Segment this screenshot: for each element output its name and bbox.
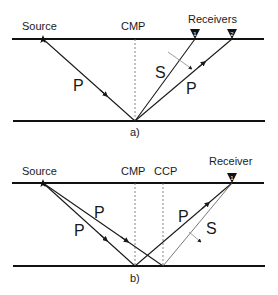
panel-b: 1 Source CMP CCP Receiver P P P S b) — [12, 155, 265, 284]
incident-p-ray-ccp — [43, 183, 163, 266]
reflected-p-ray — [135, 39, 232, 121]
converted-s-ray — [163, 183, 232, 266]
ray-arrow-icon — [202, 204, 208, 209]
polarization-arrow-icon — [168, 52, 192, 69]
ray-label-p-upper: P — [94, 204, 105, 221]
receiver-1-icon: 1 — [190, 29, 200, 39]
source-label: Source — [22, 20, 57, 32]
incident-p-ray-cmp — [43, 183, 135, 266]
panel-a: 1 2 Source CMP Receivers P S P a) — [12, 13, 265, 138]
ray-arrow-icon — [198, 63, 204, 68]
cmp-label: CMP — [121, 165, 145, 177]
source-label: Source — [22, 165, 57, 177]
ray-label-p-incident: P — [73, 77, 84, 94]
polarization-arrow-icon — [189, 232, 201, 242]
receivers-label: Receivers — [188, 13, 237, 25]
cmp-label: CMP — [121, 20, 145, 32]
ccp-label: CCP — [154, 165, 177, 177]
panel-caption-b: b) — [130, 272, 140, 284]
incident-p-ray — [43, 39, 135, 121]
ray-label-p-reflected: P — [186, 80, 197, 97]
ray-arrow-icon — [100, 90, 106, 95]
ray-arrow-icon — [100, 234, 106, 239]
receiver-1-icon: 1 — [227, 173, 237, 183]
panel-caption-a: a) — [130, 126, 140, 138]
ray-label-p-reflected: P — [178, 208, 189, 225]
receiver-label: Receiver — [209, 155, 253, 167]
ray-arrow-icon — [121, 237, 127, 241]
ray-label-p-lower: P — [74, 222, 85, 239]
receiver-2-icon: 2 — [227, 29, 237, 39]
ray-label-s: S — [206, 220, 217, 237]
ray-label-s: S — [155, 64, 166, 81]
seismic-ray-diagram: 1 2 Source CMP Receivers P S P a) — [0, 0, 278, 295]
